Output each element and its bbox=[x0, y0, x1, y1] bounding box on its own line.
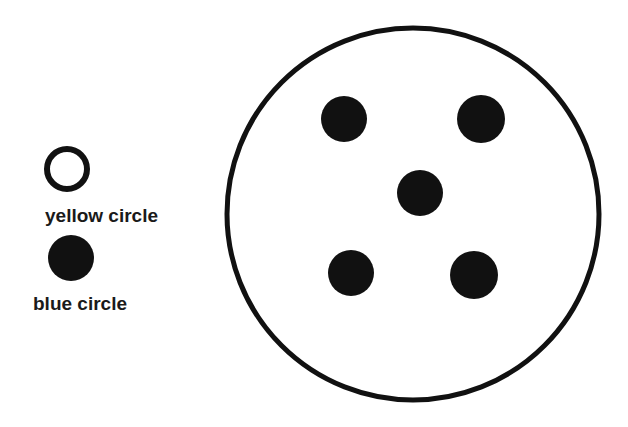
legend: yellow circle blue circle bbox=[33, 149, 158, 314]
yellow-circle-legend-label: yellow circle bbox=[45, 205, 158, 226]
diagram-svg: yellow circle blue circle bbox=[0, 0, 628, 427]
blue-circle-dot bbox=[450, 251, 498, 299]
blue-circle-dot bbox=[397, 170, 443, 216]
blue-circle-legend-label: blue circle bbox=[33, 293, 127, 314]
blue-circle-dot bbox=[328, 250, 374, 296]
blue-circle-dot bbox=[321, 96, 367, 142]
yellow-circle-legend-icon bbox=[47, 149, 87, 189]
diagram-canvas: yellow circle blue circle bbox=[0, 0, 628, 427]
blue-circles-group bbox=[321, 95, 505, 299]
blue-circle-legend-icon bbox=[48, 235, 94, 281]
blue-circle-dot bbox=[457, 95, 505, 143]
